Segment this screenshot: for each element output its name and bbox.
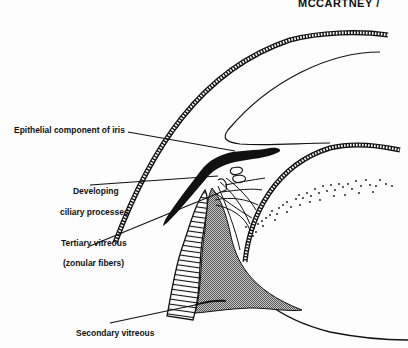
- label-tertiary-vitreous: Tertiary vitreous: [61, 238, 127, 248]
- outer-corneal-layer: [115, 33, 388, 243]
- lens-capsule-layer: [245, 145, 400, 262]
- label-secondary-vitreous: Secondary vitreous: [76, 328, 154, 338]
- figure-page: MCCARTNEY /: [0, 0, 408, 348]
- ciliary-processes: [218, 167, 246, 190]
- label-zonular-fibers: (zonular fibers): [63, 258, 124, 268]
- label-ciliary-processes: ciliary processes: [60, 207, 129, 217]
- lens-dots: [245, 179, 393, 237]
- label-iris-epithelium: Epithelial component of iris: [14, 125, 125, 135]
- label-developing: Developing: [73, 186, 119, 196]
- inner-corneal-line: [225, 52, 380, 145]
- eye-diagram: [0, 0, 408, 348]
